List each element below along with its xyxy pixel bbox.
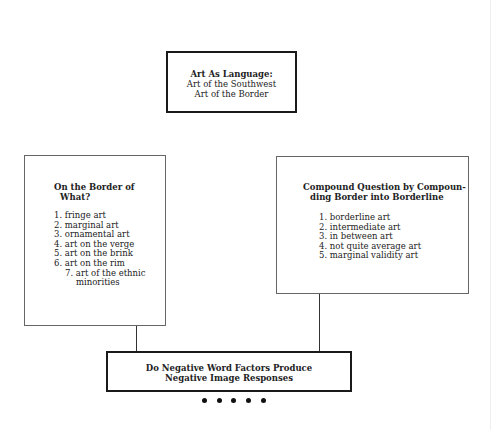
- bullet-dot: [231, 398, 236, 403]
- bottom-box-line: Do Negative Word Factors Produce: [108, 363, 350, 373]
- left-connector-line: [136, 326, 137, 352]
- bottom-box: Do Negative Word Factors Produce Negativ…: [106, 351, 352, 392]
- left-box: On the Border of What? 1. fringe art 2. …: [24, 155, 166, 326]
- right-box: Compound Question by Compoun- ding Borde…: [276, 156, 469, 294]
- top-box-title: Art As Language:: [168, 69, 295, 79]
- left-box-title-line: On the Border of: [54, 182, 165, 192]
- bullet-dot: [202, 398, 207, 403]
- list-item: 7. art of the ethnic minorities: [54, 269, 146, 288]
- top-box-line: Art of the Southwest: [168, 79, 295, 89]
- list-item: 5. marginal validity art: [319, 251, 468, 261]
- right-box-list: 1. borderline art 2. intermediate art 3.…: [303, 213, 468, 261]
- bullet-dot: [217, 398, 222, 403]
- top-box-line: Art of the Border: [168, 89, 295, 99]
- left-box-list: 1. fringe art 2. marginal art 3. ornamen…: [54, 211, 154, 288]
- bottom-box-line: Negative Image Responses: [108, 373, 350, 383]
- right-box-title-line: Compound Question by Compoun-: [303, 182, 468, 192]
- bullet-dot: [246, 398, 251, 403]
- scan-edge: [490, 0, 491, 430]
- right-box-title-line: ding Border into Borderline: [303, 192, 468, 202]
- left-box-title: On the Border of What?: [54, 182, 165, 202]
- left-box-title-line: What?: [54, 192, 165, 202]
- right-connector-line: [319, 294, 320, 352]
- top-box: Art As Language: Art of the Southwest Ar…: [166, 51, 297, 113]
- bullet-dot: [261, 398, 266, 403]
- right-box-title: Compound Question by Compoun- ding Borde…: [303, 182, 468, 202]
